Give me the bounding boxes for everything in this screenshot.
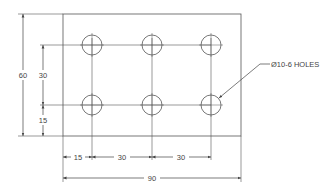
dim-overall-width: 90 — [148, 174, 156, 183]
dim-pitch-x-2: 30 — [177, 153, 185, 162]
hole-grid-lines — [40, 38, 211, 160]
dim-left-offset: 15 — [74, 153, 82, 162]
dim-overall-height: 60 — [19, 71, 27, 80]
hole-callout: Ø10-6 HOLES — [271, 60, 319, 69]
callout-leader — [219, 64, 270, 98]
dim-bottom-offset: 15 — [39, 116, 47, 125]
dim-pitch-x-1: 30 — [118, 153, 126, 162]
center-marks — [80, 33, 223, 117]
technical-drawing: 60 30 15 15 30 30 90 Ø10-6 HOLES — [0, 0, 335, 192]
dim-hole-pitch-vertical: 30 — [39, 71, 47, 80]
dimension-lines — [23, 14, 270, 178]
holes — [82, 35, 221, 115]
